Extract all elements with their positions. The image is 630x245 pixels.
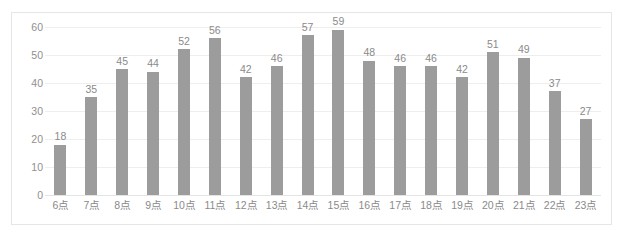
- bar-slot: 59: [323, 27, 354, 195]
- y-axis-tick-label: 30: [17, 106, 43, 117]
- x-axis-tick-label: 22点: [539, 199, 570, 212]
- x-axis-tick-label: 12点: [230, 199, 261, 212]
- bar-value-label: 46: [271, 53, 283, 64]
- bar[interactable]: [580, 119, 592, 195]
- x-axis-tick-label: 10点: [169, 199, 200, 212]
- y-axis-tick-label: 10: [17, 162, 43, 173]
- y-axis-tick-label: 50: [17, 50, 43, 61]
- x-axis-tick-label: 7点: [76, 199, 107, 212]
- x-axis-tick-label: 9点: [138, 199, 169, 212]
- bar[interactable]: [240, 77, 252, 195]
- bar-slot: 42: [230, 27, 261, 195]
- x-axis-tick-label: 20点: [477, 199, 508, 212]
- bar-value-label: 56: [209, 25, 221, 36]
- bar[interactable]: [549, 91, 561, 195]
- bar[interactable]: [363, 61, 375, 195]
- bar-slot: 27: [570, 27, 601, 195]
- bar-slot: 52: [169, 27, 200, 195]
- bar-slot: 51: [477, 27, 508, 195]
- bar-value-label: 27: [580, 106, 592, 117]
- bar-value-label: 37: [549, 78, 561, 89]
- bar-value-label: 46: [394, 53, 406, 64]
- bar-value-label: 44: [147, 58, 159, 69]
- bar[interactable]: [271, 66, 283, 195]
- bar-value-label: 18: [55, 131, 67, 142]
- bar-slot: 57: [292, 27, 323, 195]
- bar[interactable]: [518, 58, 530, 195]
- bar-value-label: 49: [518, 44, 530, 55]
- x-axis-tick-label: 16点: [354, 199, 385, 212]
- bar-slot: 46: [416, 27, 447, 195]
- x-axis-tick-label: 11点: [199, 199, 230, 212]
- bar[interactable]: [302, 35, 314, 195]
- x-axis-tick-label: 13点: [261, 199, 292, 212]
- bar[interactable]: [425, 66, 437, 195]
- bar-slot: 45: [107, 27, 138, 195]
- figure-caption: [11, 236, 612, 245]
- x-axis-tick-label: 6点: [45, 199, 76, 212]
- bar[interactable]: [456, 77, 468, 195]
- bar[interactable]: [209, 38, 221, 195]
- bar-value-label: 48: [363, 47, 375, 58]
- bar-slot: 18: [45, 27, 76, 195]
- plot-area: 183545445256424657594846464251493727: [45, 27, 601, 195]
- bar[interactable]: [487, 52, 499, 195]
- chart-frame: 0102030405060 18354544525642465759484646…: [11, 12, 612, 225]
- bar-value-label: 35: [85, 84, 97, 95]
- bar-slot: 46: [385, 27, 416, 195]
- x-axis-tick-label: 8点: [107, 199, 138, 212]
- x-axis-tick-label: 21点: [508, 199, 539, 212]
- bar-slot: 37: [539, 27, 570, 195]
- bar[interactable]: [147, 72, 159, 195]
- bar-chart-figure: 0102030405060 18354544525642465759484646…: [0, 0, 630, 245]
- bar-value-label: 51: [487, 39, 499, 50]
- y-axis-tick-label: 0: [17, 190, 43, 201]
- bar-value-label: 42: [240, 64, 252, 75]
- bar[interactable]: [54, 145, 66, 195]
- gridline-0: [45, 195, 601, 196]
- bar-slot: 42: [447, 27, 478, 195]
- bar[interactable]: [178, 49, 190, 195]
- bar-value-label: 42: [456, 64, 468, 75]
- bar-slot: 35: [76, 27, 107, 195]
- x-axis-tick-label: 18点: [416, 199, 447, 212]
- bar[interactable]: [332, 30, 344, 195]
- y-axis-tick-label: 40: [17, 78, 43, 89]
- bar-slot: 49: [508, 27, 539, 195]
- bar-value-label: 45: [116, 56, 128, 67]
- x-axis: 6点7点8点9点10点11点12点13点14点15点16点17点18点19点20…: [45, 199, 601, 215]
- bar-value-label: 57: [302, 22, 314, 33]
- bar-value-label: 46: [425, 53, 437, 64]
- bar-slot: 44: [138, 27, 169, 195]
- x-axis-tick-label: 15点: [323, 199, 354, 212]
- x-axis-tick-label: 17点: [385, 199, 416, 212]
- bar-slot: 48: [354, 27, 385, 195]
- x-axis-tick-label: 23点: [570, 199, 601, 212]
- bar-value-label: 52: [178, 36, 190, 47]
- bar[interactable]: [394, 66, 406, 195]
- bar-value-label: 59: [333, 16, 345, 27]
- x-axis-tick-label: 19点: [447, 199, 478, 212]
- y-axis: 0102030405060: [12, 27, 43, 195]
- bar-slot: 46: [261, 27, 292, 195]
- bar[interactable]: [116, 69, 128, 195]
- bar-slot: 56: [199, 27, 230, 195]
- y-axis-tick-label: 60: [17, 22, 43, 33]
- y-axis-tick-label: 20: [17, 134, 43, 145]
- bar[interactable]: [85, 97, 97, 195]
- x-axis-tick-label: 14点: [292, 199, 323, 212]
